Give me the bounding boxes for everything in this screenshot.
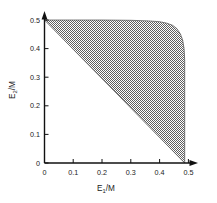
x-axis-title: E1/M xyxy=(97,184,115,194)
x-tick-label: 0.1 xyxy=(68,168,78,177)
y-axis-title: E2/M xyxy=(8,81,18,99)
x-tick-label: 0 xyxy=(43,168,47,177)
y-tick-label: 0.3 xyxy=(30,73,40,82)
y-tick-label: 0.4 xyxy=(30,44,40,53)
y-tick-label: 0 xyxy=(36,159,40,168)
y-axis-title-tail: /M xyxy=(8,81,17,90)
x-tick-label: 0.2 xyxy=(97,168,107,177)
svg-text:E1/M: E1/M xyxy=(97,184,115,194)
y-tick-label: 0.5 xyxy=(30,16,40,25)
x-tick-label: 0.4 xyxy=(155,168,165,177)
chart-figure: 0 0.1 0.2 0.3 0.4 0.5 0 0.1 0.2 0.3 0.4 … xyxy=(0,0,217,203)
y-tick-label: 0.2 xyxy=(30,101,40,110)
x-tick-label: 0.3 xyxy=(126,168,136,177)
y-tick-label: 0.1 xyxy=(30,130,40,139)
svg-text:E2/M: E2/M xyxy=(8,81,18,99)
x-axis-title-tail: /M xyxy=(106,184,115,193)
x-tick-label: 0.5 xyxy=(183,168,193,177)
